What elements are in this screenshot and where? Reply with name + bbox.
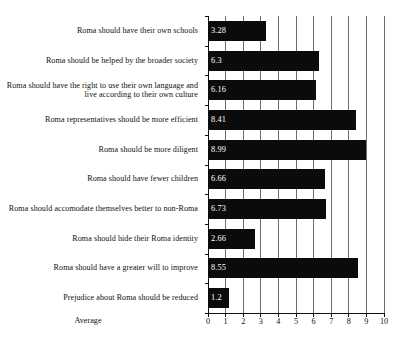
category-axis-tick bbox=[205, 224, 209, 225]
bar bbox=[208, 110, 356, 130]
bar-row: 8.41 bbox=[208, 110, 384, 130]
x-axis-tick bbox=[243, 313, 244, 317]
bar bbox=[208, 140, 366, 160]
bar-value-label: 6.73 bbox=[211, 199, 226, 219]
bar-value-label: 6.3 bbox=[211, 51, 222, 71]
x-axis-tick bbox=[313, 313, 314, 317]
bar-row: 1.2 bbox=[208, 288, 384, 308]
bar-value-label: 3.28 bbox=[211, 21, 226, 41]
category-axis-tick bbox=[205, 75, 209, 76]
category-label: Roma should have their own schools bbox=[2, 26, 198, 36]
bar-row: 8.99 bbox=[208, 140, 384, 160]
x-axis-tick bbox=[348, 313, 349, 317]
bar-value-label: 8.41 bbox=[211, 110, 226, 130]
category-label: Prejudice about Roma should be reduced bbox=[2, 293, 198, 303]
bar-value-label: 8.55 bbox=[211, 258, 226, 278]
category-axis-tick bbox=[205, 313, 209, 314]
bar-row: 6.66 bbox=[208, 169, 384, 189]
x-axis-tick bbox=[384, 313, 385, 317]
category-label-column: Roma should have their own schoolsRoma s… bbox=[0, 16, 203, 313]
bar-value-label: 6.66 bbox=[211, 169, 226, 189]
bar bbox=[208, 51, 319, 71]
bar-row: 3.28 bbox=[208, 21, 384, 41]
category-label: Roma should hide their Roma identity bbox=[2, 234, 198, 244]
category-label: Roma representatives should be more effi… bbox=[2, 115, 198, 125]
bar-row: 2.66 bbox=[208, 229, 384, 249]
category-axis-tick bbox=[205, 194, 209, 195]
category-label: Roma should be more diligent bbox=[2, 145, 198, 155]
category-axis-tick bbox=[205, 283, 209, 284]
category-axis-tick bbox=[205, 165, 209, 166]
x-axis-tick-label: 10 bbox=[374, 317, 394, 326]
plot-area: 0123456789103.286.36.168.418.996.666.732… bbox=[208, 16, 384, 313]
category-label: Roma should accomodate themselves better… bbox=[2, 204, 198, 214]
category-axis-tick bbox=[205, 16, 209, 17]
bar-value-label: 1.2 bbox=[211, 288, 222, 308]
bar-row: 6.16 bbox=[208, 80, 384, 100]
category-axis-tick bbox=[205, 135, 209, 136]
bar bbox=[208, 258, 358, 278]
bar-row: 6.73 bbox=[208, 199, 384, 219]
bar-value-label: 6.16 bbox=[211, 80, 226, 100]
x-axis-tick bbox=[331, 313, 332, 317]
x-axis-tick bbox=[278, 313, 279, 317]
category-axis-tick bbox=[205, 105, 209, 106]
bar-value-label: 2.66 bbox=[211, 229, 226, 249]
bar-value-label: 8.99 bbox=[211, 140, 226, 160]
category-axis-tick bbox=[205, 46, 209, 47]
category-axis-tick bbox=[205, 254, 209, 255]
x-axis-tick bbox=[366, 313, 367, 317]
category-label: Roma should be helped by the broader soc… bbox=[2, 56, 198, 66]
x-axis-title: Average bbox=[0, 316, 176, 325]
x-axis-tick bbox=[225, 313, 226, 317]
x-axis-tick bbox=[260, 313, 261, 317]
category-label: Roma should have the right to use their … bbox=[2, 81, 198, 100]
bar-row: 6.3 bbox=[208, 51, 384, 71]
category-label: Roma should have fewer children bbox=[2, 174, 198, 184]
bar-chart: Roma should have their own schoolsRoma s… bbox=[0, 0, 400, 354]
x-axis-tick bbox=[296, 313, 297, 317]
bar-row: 8.55 bbox=[208, 258, 384, 278]
category-label: Roma should have a greater will to impro… bbox=[2, 263, 198, 273]
